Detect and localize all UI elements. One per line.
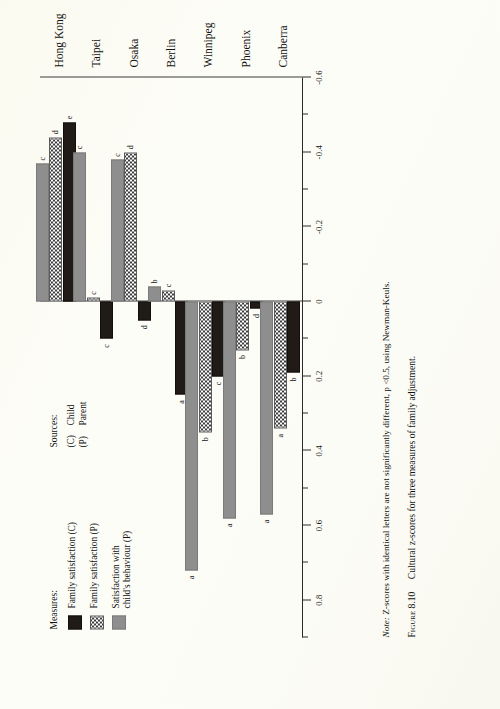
sources-legend-title: Sources: [48,401,59,447]
source-label: Child [66,404,76,425]
legend-label: Family satisfaction (P) [89,523,100,608]
significance-letter: a [276,433,285,437]
bar-parent [274,301,287,428]
source-key: (P) [77,425,89,447]
scanned-page: 0.80.60.40.20-0.2-0.4-0.6 cdeccccddbcaab… [0,0,500,709]
figure-number: Figure 8.10 [406,591,417,637]
measures-legend-title: Measures: [48,522,59,629]
category-label: Hong Kong [53,13,65,67]
figure-caption: Figure 8.10 Cultural z-scores for three … [406,355,417,637]
source-item: (C)Child [65,401,77,447]
note-body: Z-scores with identical letters are not … [381,281,391,617]
axis-major-tick [302,449,311,450]
significance-letter: d [140,325,149,329]
source-item: (P)Parent [77,401,89,447]
sources-legend: Sources: (C)Child(P)Parent [48,401,89,447]
axis-minor-tick [302,263,308,264]
axis-major-tick [302,225,311,226]
axis-major-tick [302,599,311,600]
axis-major-tick [302,375,311,376]
significance-letter: b [201,437,210,441]
axis-major-tick [302,300,311,301]
axis-tick-label: 0.2 [314,370,324,381]
significance-letter: c [75,145,84,149]
bar-behaviour [111,159,124,301]
significance-letter: a [225,523,234,527]
category-label: Taipei [90,38,102,67]
category-label: Osaka [128,38,140,67]
axis-tick-label: 0 [314,299,324,304]
significance-letter: a [262,519,271,523]
legend-item-behaviour: Satisfaction with child's behaviour (P) [111,522,134,629]
category-label: Berlin [165,38,177,67]
note-prefix: Note: [381,617,391,637]
legend-item-parent: Family satisfaction (P) [89,522,104,629]
bar-behaviour [185,301,198,570]
category-label: Phoenix [240,29,252,67]
figure-canvas: 0.80.60.40.20-0.2-0.4-0.6 cdeccccddbcaab… [0,0,500,709]
value-axis-line [302,77,303,637]
legend-label: Family satisfaction (C) [67,522,78,608]
axis-minor-tick [302,188,308,189]
significance-letter: e [65,115,74,119]
bar-parent [236,301,249,350]
bar-parent [162,290,175,301]
axis-major-tick [302,524,311,525]
bar-behaviour [223,301,236,518]
category-label: Canberra [277,25,289,67]
significance-letter: c [38,156,47,160]
axis-minor-tick [302,113,308,114]
significance-letter: c [164,283,173,287]
bar-parent [87,297,100,301]
category-axis-line [40,76,302,77]
bar-parent [124,152,137,301]
bar-child [138,301,151,320]
bar-behaviour [148,286,161,301]
axis-minor-tick [302,337,308,338]
legend-swatch-behaviour [112,615,126,629]
legend-swatch-parent [90,615,104,629]
axis-tick-label: -0.6 [314,70,324,84]
bar-behaviour [36,163,49,301]
legend-label: Satisfaction with child's behaviour (P) [111,530,134,608]
significance-letter: c [102,344,111,348]
figure-caption-text: Cultural z-scores for three measures of … [406,355,417,578]
axis-tick-label: 0.4 [314,445,324,456]
axis-major-tick [302,151,311,152]
bar-behaviour [73,152,86,301]
bar-child [287,301,300,372]
axis-tick-label: -0.2 [314,219,324,233]
bar-behaviour [260,301,273,514]
significance-letter: b [150,279,159,283]
significance-letter: b [238,355,247,359]
figure-note: Note: Z-scores with identical letters ar… [381,281,391,637]
source-key: (C) [65,425,77,447]
significance-letter: d [126,145,135,149]
significance-letter: c [113,153,122,157]
bar-child [100,301,113,338]
axis-minor-tick [302,561,308,562]
axis-tick-label: 0.8 [314,594,324,605]
source-label: Parent [78,401,88,425]
axis-tick-label: -0.4 [314,144,324,158]
significance-letter: a [187,575,196,579]
legend-item-child: Family satisfaction (C) [67,522,82,629]
axis-tick-label: 0.6 [314,519,324,530]
significance-letter: c [89,291,98,295]
bar-parent [199,301,212,432]
axis-minor-tick [302,487,308,488]
axis-minor-tick [302,412,308,413]
category-label: Winnipeg [202,22,214,67]
axis-major-tick [302,76,311,77]
significance-letter: d [51,130,60,134]
bar-parent [49,137,62,301]
significance-letter: b [289,377,298,381]
measures-legend: Measures: Family satisfaction (C)Family … [48,522,141,629]
legend-swatch-child [68,615,82,629]
axis-minor-tick [302,636,308,637]
